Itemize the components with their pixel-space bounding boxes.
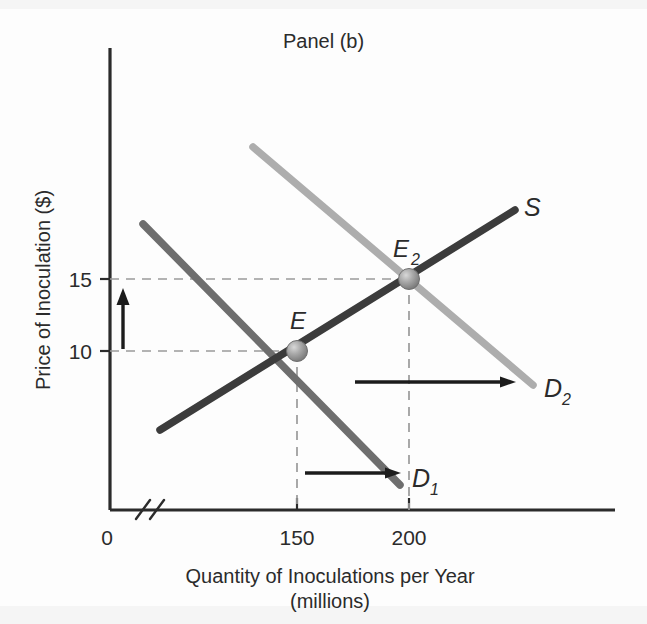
demand-curve-d2-label-text: D [544, 374, 562, 402]
x-axis-title: Quantity of Inoculations per Year [185, 565, 474, 587]
demand-curve-d1-label-text: D [412, 464, 430, 492]
demand-curve-d2-label: D 2 [544, 374, 571, 408]
supply-demand-chart: Panel (b) 15 10 0 150 200 Price of Inocu… [0, 0, 647, 624]
x-axis-title-units: (millions) [290, 590, 370, 612]
demand-shift-arrow-upper [355, 377, 516, 388]
y-tick-label-10: 10 [69, 340, 92, 363]
y-axis-title: Price of Inoculation ($) [32, 190, 54, 390]
equilibrium-label-e2-text: E [393, 235, 410, 262]
equilibrium-label-e2-subscript: 2 [410, 251, 420, 268]
demand-curve-d1 [143, 224, 400, 485]
demand-curve-d2-label-subscript: 2 [561, 391, 571, 408]
panel-title: Panel (b) [283, 30, 364, 52]
demand-curve-d1-label: D 1 [412, 464, 439, 498]
equilibrium-marker-e [287, 341, 308, 362]
x-tick-label-150: 150 [279, 526, 314, 549]
x-tick-label-0: 0 [101, 526, 113, 549]
price-increase-arrow [117, 288, 130, 349]
supply-curve-label-text: S [524, 193, 541, 221]
equilibrium-marker-e2 [399, 269, 420, 290]
x-tick-label-200: 200 [391, 526, 426, 549]
equilibrium-label-e2: E 2 [393, 235, 420, 268]
equilibrium-label-e: E [290, 307, 307, 334]
figure-root: Panel (b) 15 10 0 150 200 Price of Inocu… [0, 0, 647, 624]
equilibrium-label-e-text: E [290, 307, 307, 334]
y-tick-label-15: 15 [69, 268, 92, 291]
supply-curve-label: S [524, 193, 541, 221]
quantity-increase-arrow [305, 468, 401, 479]
demand-curve-d1-label-subscript: 1 [430, 481, 439, 498]
